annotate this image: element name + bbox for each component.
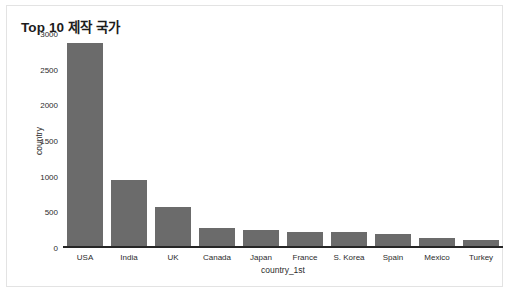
chart-title: Top 10 제작 국가 — [21, 16, 120, 36]
bar-group: Turkey — [459, 34, 503, 248]
plot-area: country 050010001500200025003000 USAIndi… — [63, 34, 503, 248]
bar-group: Mexico — [415, 34, 459, 248]
bar-group: Japan — [239, 34, 283, 248]
bar-group: UK — [151, 34, 195, 248]
bar-group: India — [107, 34, 151, 248]
x-axis-tick-label: Spain — [383, 253, 403, 262]
y-axis-tick-label: 500 — [45, 208, 58, 217]
bar[interactable] — [111, 180, 147, 248]
x-axis-tick-label: Japan — [250, 253, 272, 262]
x-axis-tick-label: Canada — [203, 253, 231, 262]
bar[interactable] — [199, 228, 235, 248]
bar[interactable] — [67, 43, 103, 248]
y-axis-tick-label: 0 — [54, 244, 58, 253]
y-axis-tick-label: 1500 — [40, 137, 58, 146]
y-axis-tick-label: 2500 — [40, 65, 58, 74]
bar-group: S. Korea — [327, 34, 371, 248]
x-axis-line — [63, 246, 503, 248]
bar[interactable] — [155, 207, 191, 248]
bar-group: USA — [63, 34, 107, 248]
bar-group: Canada — [195, 34, 239, 248]
y-axis-tick-label: 1000 — [40, 172, 58, 181]
y-axis-tick-label: 2000 — [40, 101, 58, 110]
bar-group: Spain — [371, 34, 415, 248]
bar-series: USAIndiaUKCanadaJapanFranceS. KoreaSpain… — [63, 34, 503, 248]
y-axis-tick-label: 3000 — [40, 30, 58, 39]
x-axis-tick-label: India — [120, 253, 137, 262]
x-axis-tick-label: USA — [77, 253, 93, 262]
bar-group: France — [283, 34, 327, 248]
x-axis-tick-label: S. Korea — [333, 253, 364, 262]
x-axis-tick-label: Mexico — [424, 253, 449, 262]
x-axis-label: country_1st — [63, 265, 503, 275]
chart-card: Top 10 제작 국가 country 0500100015002000250… — [6, 5, 503, 287]
x-axis-tick-label: France — [293, 253, 318, 262]
x-axis-tick-label: UK — [167, 253, 178, 262]
bar[interactable] — [243, 230, 279, 248]
x-axis-tick-label: Turkey — [469, 253, 493, 262]
